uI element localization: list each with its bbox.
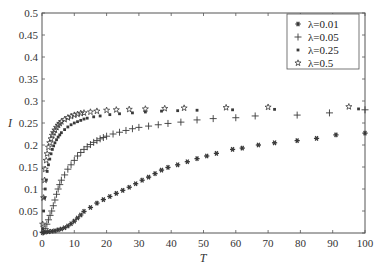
x-tick-label: 50 (198, 237, 210, 249)
y-tick-label: 0.15 (19, 161, 39, 173)
x-axis-label: T (200, 251, 208, 265)
x-tick-label: 20 (101, 237, 113, 249)
y-axis-label: I (7, 116, 13, 130)
legend-label: λ=0.01 (308, 18, 339, 30)
legend-label: λ=0.5 (308, 57, 334, 69)
chart: 00.050.10.150.20.250.30.350.40.450.5 010… (0, 0, 383, 274)
y-tick-label: 0.05 (19, 205, 39, 217)
x-tick-label: 80 (295, 237, 307, 249)
x-tick-label: 40 (166, 237, 178, 249)
y-tick-label: 0.45 (19, 29, 39, 41)
y-tick-label: 0.4 (24, 51, 38, 63)
y-tick-label: 0.25 (19, 117, 39, 129)
y-tick-label: 0.2 (24, 139, 38, 151)
x-tick-label: 10 (69, 237, 81, 249)
x-tick-label: 70 (263, 237, 275, 249)
x-tick-label: 60 (230, 237, 242, 249)
legend-label: λ=0.05 (308, 31, 339, 43)
y-tick-label: 0.1 (24, 183, 38, 195)
x-tick-label: 100 (357, 237, 374, 249)
x-tick-label: 90 (327, 237, 339, 249)
y-tick-label: 0.3 (24, 95, 38, 107)
y-tick-label: 0 (33, 227, 39, 239)
y-tick-label: 0.35 (19, 73, 39, 85)
legend-label: λ=0.25 (308, 44, 339, 56)
y-tick-label: 0.5 (24, 7, 38, 19)
x-tick-label: 0 (39, 237, 45, 249)
x-tick-label: 30 (133, 237, 145, 249)
legend: λ=0.01λ=0.05λ=0.25λ=0.5 (287, 14, 359, 69)
